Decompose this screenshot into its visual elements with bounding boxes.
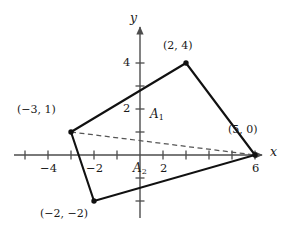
vertex-dot-2-4 <box>183 60 188 65</box>
x-tick-label-neg4: −4 <box>40 163 57 175</box>
region-label-a2-sub: 2 <box>142 167 147 176</box>
vertex-label-2-4: (2, 4) <box>163 40 193 51</box>
vertex-dot-5-0 <box>252 152 257 157</box>
x-tick-label-2: 2 <box>160 163 167 175</box>
y-tick-label-4: 4 <box>123 57 130 69</box>
y-tick-label-2: 2 <box>123 103 130 115</box>
x-tick-label-neg2: −2 <box>86 163 103 175</box>
vertex-dot-neg3-1 <box>68 129 73 134</box>
plot-canvas <box>0 0 289 242</box>
region-label-a1-sub: 1 <box>159 113 164 122</box>
x-axis-label: x <box>270 146 277 159</box>
x-tick-label-6: 6 <box>252 163 259 175</box>
vertex-label-neg3-1: (−3, 1) <box>17 104 56 115</box>
vertex-label-5-0: (5, 0) <box>228 124 258 135</box>
vertex-dot-neg2-neg2 <box>91 198 96 203</box>
region-label-a1: A1 <box>150 108 164 120</box>
region-label-a2-base: A <box>133 161 142 175</box>
region-label-a2: A2 <box>133 162 147 174</box>
vertex-label-neg2-neg2: (−2, −2) <box>40 208 88 219</box>
figure-coordinate-plane: x y −4 −2 2 6 2 4 (−3, 1) (2, 4) (5, 0) … <box>0 0 289 242</box>
y-axis-label: y <box>130 12 137 25</box>
region-label-a1-base: A <box>150 107 159 121</box>
